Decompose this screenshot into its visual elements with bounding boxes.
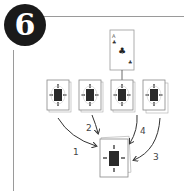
arrow-label-3: 3	[153, 152, 159, 162]
arrow-label-1: 1	[73, 147, 79, 157]
arrow-label-4: 4	[140, 126, 146, 136]
card-pile-4	[143, 80, 168, 113]
card-pile-2	[79, 80, 103, 112]
svg-text:♣: ♣	[112, 39, 116, 45]
ace-of-clubs-card: A ♣ ♣ ♣	[110, 30, 134, 80]
card-pile-1	[47, 80, 71, 112]
svg-text:♣: ♣	[128, 59, 132, 65]
card-pile-3	[111, 80, 135, 112]
clubs-suit-icon: ♣	[118, 46, 126, 56]
card-diagram: A ♣ ♣ ♣	[0, 0, 184, 191]
arrow-4	[130, 115, 137, 143]
arrow-2	[92, 115, 98, 133]
arrow-label-2: 2	[86, 123, 92, 133]
center-stack	[100, 136, 131, 177]
